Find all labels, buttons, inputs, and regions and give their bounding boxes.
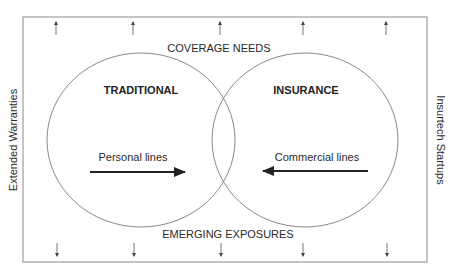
commercial-lines-label: Commercial lines [268, 151, 366, 163]
personal-lines-label: Personal lines [92, 151, 174, 163]
right-circle-insurance [212, 53, 398, 227]
circle-title-insurance: INSURANCE [266, 84, 346, 96]
top-label-coverage-needs: COVERAGE NEEDS [166, 42, 272, 54]
bottom-label-emerging-exposures: EMERGING EXPOSURES [158, 228, 298, 240]
circle-title-traditional: TRADITIONAL [96, 84, 186, 96]
right-label-insurtech-startups: Insurtech Startups [435, 80, 447, 200]
left-label-extended-warranties: Extended Warranties [7, 80, 19, 200]
left-circle-traditional [47, 53, 235, 227]
